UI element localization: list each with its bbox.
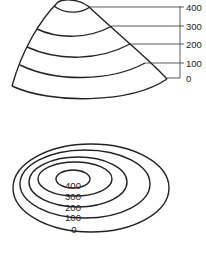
contour-diagram: 400 300 200 100 0 400 300 200 100 0 <box>0 0 206 256</box>
axis-label-0: 0 <box>186 73 191 84</box>
hill-contour-200 <box>27 44 130 57</box>
axis-label-400: 400 <box>186 2 202 13</box>
contour-map: 400 300 200 100 0 <box>13 144 169 235</box>
hill-base-curve <box>12 79 167 99</box>
hill-profile: 400 300 200 100 0 <box>12 0 202 99</box>
hill-contour-400 <box>54 6 90 12</box>
axis-label-300: 300 <box>186 21 202 32</box>
contour-label-0: 0 <box>71 224 76 235</box>
hill-contour-100 <box>20 63 145 78</box>
contour-label-400: 400 <box>65 180 81 191</box>
contour-label-100: 100 <box>65 212 81 223</box>
contour-label-300: 300 <box>65 191 81 202</box>
hill-contour-300 <box>37 26 112 36</box>
hill-left-edge <box>12 2 58 86</box>
axis-label-200: 200 <box>186 39 202 50</box>
axis-label-100: 100 <box>186 58 202 69</box>
